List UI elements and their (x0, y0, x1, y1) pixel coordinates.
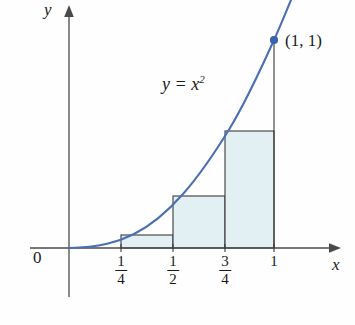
fraction-denominator: 4 (219, 271, 231, 287)
origin-label: 0 (33, 249, 42, 266)
curve-equation-base: y = x (162, 74, 199, 94)
point-marker-1-1 (270, 36, 278, 44)
x-tick-label-half: 1 2 (167, 254, 179, 287)
point-label: (1, 1) (285, 32, 322, 49)
fraction-denominator: 2 (167, 271, 179, 287)
riemann-rect-2 (173, 196, 225, 248)
x-tick-label-three-quarters: 3 4 (219, 254, 231, 287)
fraction-numerator: 3 (219, 254, 231, 271)
curve-equation-label: y = x2 (162, 74, 205, 93)
fraction-three-quarters: 3 4 (219, 254, 231, 287)
curve-equation-exponent: 2 (199, 73, 205, 85)
x-axis-label: x (332, 256, 340, 273)
fraction-one-quarter: 1 4 (115, 254, 127, 287)
x-tick-label-quarter: 1 4 (115, 254, 127, 287)
riemann-rectangles (121, 131, 274, 248)
fraction-denominator: 4 (115, 271, 127, 287)
fraction-numerator: 1 (167, 254, 179, 271)
y-axis-label: y (44, 1, 52, 18)
fraction-numerator: 1 (115, 254, 127, 271)
fraction-one-half: 1 2 (167, 254, 179, 287)
riemann-rect-3 (225, 131, 274, 248)
y-axis (64, 5, 74, 297)
x-tick-label-one: 1 (270, 254, 278, 269)
riemann-sum-figure: y x 0 y = x2 (1, 1) 1 4 1 2 3 4 1 (0, 0, 355, 325)
